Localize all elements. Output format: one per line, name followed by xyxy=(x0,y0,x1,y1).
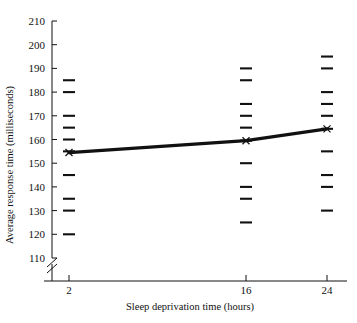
y-tick-label-180: 180 xyxy=(29,86,46,98)
y-tick-label-160: 160 xyxy=(29,134,46,146)
chart-container: Average response time (milliseconds) Sle… xyxy=(0,0,357,323)
x-axis: 21624 xyxy=(44,275,347,296)
y-axis-title: Average response time (milliseconds) xyxy=(4,85,16,244)
y-tick-label-190: 190 xyxy=(29,62,46,74)
y-tick-label-120: 120 xyxy=(29,228,46,240)
y-tick-label-140: 140 xyxy=(29,181,46,193)
y-tick-label-130: 130 xyxy=(29,205,46,217)
x-tick-label-24: 24 xyxy=(322,284,334,296)
x-tick-label-16: 16 xyxy=(241,284,253,296)
y-tick-label-170: 170 xyxy=(29,110,46,122)
series-polyline xyxy=(69,129,327,153)
y-tick-label-200: 200 xyxy=(29,39,46,51)
y-tick-label-150: 150 xyxy=(29,157,46,169)
x-tick-label-2: 2 xyxy=(66,284,72,296)
y-axis: 110120130140150160170180190200210 xyxy=(29,15,58,281)
line-chart: Average response time (milliseconds) Sle… xyxy=(0,0,357,323)
series-average-response-time xyxy=(66,125,331,156)
y-tick-label-210: 210 xyxy=(29,15,46,27)
x-axis-title: Sleep deprivation time (hours) xyxy=(126,301,255,313)
y-tick-label-110: 110 xyxy=(29,252,46,264)
